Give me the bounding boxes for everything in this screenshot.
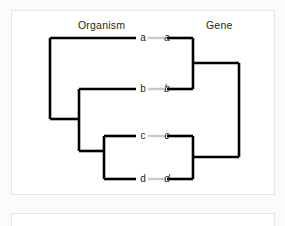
organism-tree [50,38,136,179]
organism-tip-label-d: d [136,174,150,184]
main-figure-panel: Organism Gene [11,10,275,195]
gene-tip-label-c: c [160,131,174,141]
organism-tip-label-b: b [136,84,150,94]
tip-connectors [148,38,166,179]
gene-tree [167,38,239,179]
organism-tip-label-c: c [136,131,150,141]
gene-tip-label-a: a [160,33,174,43]
gene-tip-label-d: d [160,174,174,184]
secondary-panel [11,213,275,226]
tanglegram-figure: Organism Gene [12,11,276,196]
organism-tip-label-a: a [136,33,150,43]
gene-tip-label-b: b [160,84,174,94]
